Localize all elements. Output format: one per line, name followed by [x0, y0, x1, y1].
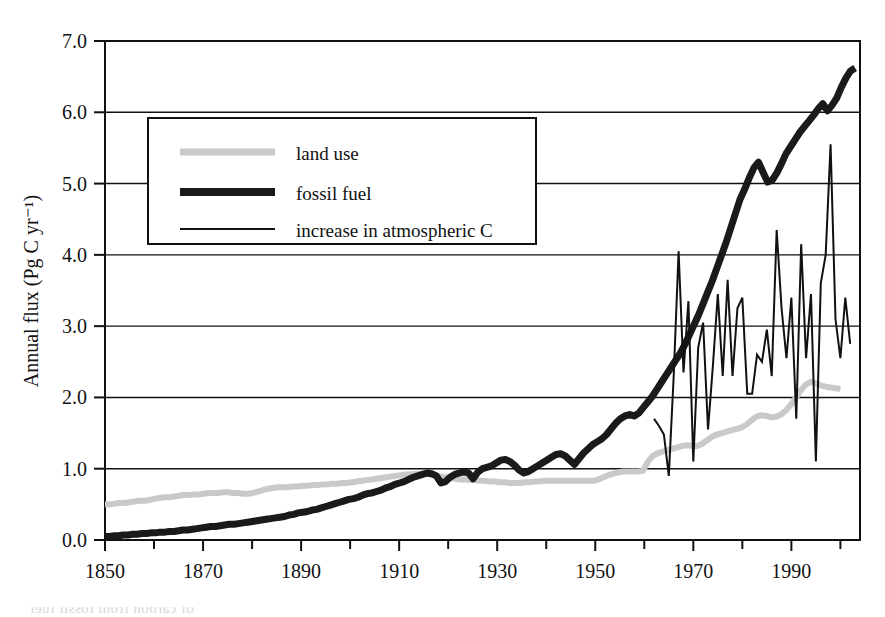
y-axis-tick-label: 7.0: [62, 30, 87, 52]
chart-legend: land usefossil fuelincrease in atmospher…: [148, 118, 536, 244]
x-axis-tick-label: 1870: [183, 560, 223, 582]
x-axis-tick-label: 1910: [379, 560, 419, 582]
y-axis-title: Annual flux (Pg C yr⁻¹): [20, 195, 43, 388]
legend-label: land use: [296, 143, 359, 164]
x-axis-tick-label: 1950: [575, 560, 615, 582]
y-axis-tick-label: 4.0: [62, 244, 87, 266]
x-axis-tick-label: 1990: [771, 560, 811, 582]
legend-label: increase in atmospheric C: [296, 220, 493, 241]
x-axis-tick-label: 1850: [85, 560, 125, 582]
x-axis-tick-label: 1970: [673, 560, 713, 582]
y-axis-tick-label: 5.0: [62, 173, 87, 195]
y-axis-tick-label: 6.0: [62, 101, 87, 123]
x-axis-tick-label: 1890: [281, 560, 321, 582]
y-axis-tick-label: 0.0: [62, 529, 87, 551]
x-axis-tick-label: 1930: [477, 560, 517, 582]
legend-label: fossil fuel: [296, 183, 371, 204]
y-axis-tick-label: 3.0: [62, 315, 87, 337]
y-axis-tick-label: 2.0: [62, 386, 87, 408]
y-axis-tick-label: 1.0: [62, 458, 87, 480]
